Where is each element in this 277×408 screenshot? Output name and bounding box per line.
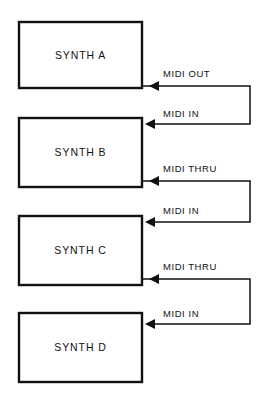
- label-midi-out-a: MIDI OUT: [163, 68, 210, 79]
- diagram-canvas: SYNTH A SYNTH B SYNTH C SYNTH D MIDI OUT…: [0, 0, 277, 408]
- label-midi-in-c: MIDI IN: [163, 205, 199, 216]
- synth-c-node: SYNTH C: [19, 216, 142, 285]
- arrowhead-c-in: [145, 217, 155, 227]
- synth-b-label: SYNTH B: [55, 146, 107, 158]
- synth-d-node: SYNTH D: [19, 313, 142, 382]
- label-midi-thru-c: MIDI THRU: [163, 261, 217, 272]
- synth-b-node: SYNTH B: [19, 118, 142, 187]
- arrowhead-a-out: [149, 81, 159, 91]
- label-midi-thru-b: MIDI THRU: [163, 163, 217, 174]
- arrowhead-c-thru: [149, 274, 159, 284]
- midi-chain-diagram: SYNTH A SYNTH B SYNTH C SYNTH D MIDI OUT…: [0, 0, 277, 408]
- arrowhead-d-in: [145, 319, 155, 329]
- arrowhead-b-in: [145, 119, 155, 129]
- connection-b-thru-to-c-in: MIDI THRU MIDI IN: [142, 163, 250, 227]
- label-midi-in-b: MIDI IN: [163, 108, 199, 119]
- connection-c-thru-to-d-in: MIDI THRU MIDI IN: [142, 261, 250, 329]
- arrowhead-b-thru: [149, 176, 159, 186]
- label-midi-in-d: MIDI IN: [163, 308, 199, 319]
- synth-d-label: SYNTH D: [54, 341, 106, 353]
- synth-a-node: SYNTH A: [19, 22, 142, 88]
- synth-c-label: SYNTH C: [54, 244, 106, 256]
- synth-a-label: SYNTH A: [55, 49, 106, 61]
- connection-a-out-to-b-in: MIDI OUT MIDI IN: [142, 68, 250, 129]
